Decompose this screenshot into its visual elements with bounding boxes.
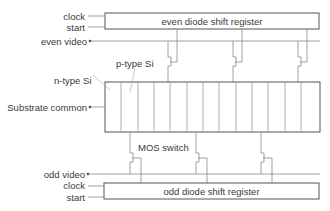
diode-array <box>105 82 320 132</box>
start-top-label: start <box>67 22 85 33</box>
start-bottom-label: start <box>67 192 85 203</box>
p-type-label: p-type Si <box>116 58 154 69</box>
odd-register-label: odd diode shift register <box>104 186 319 197</box>
even-mos-switches <box>168 29 307 82</box>
clock-bottom-label: clock <box>63 180 85 191</box>
clock-top-label: clock <box>63 11 85 22</box>
even-video-label: even video <box>41 36 87 47</box>
odd-video-label: odd video <box>44 169 85 180</box>
substrate-common-label: Substrate common <box>7 102 87 113</box>
n-type-label: n-type Si <box>54 75 92 86</box>
even-register-label: even diode shift register <box>105 16 319 27</box>
mos-switch-label: MOS switch <box>138 142 189 153</box>
odd-mos-switches <box>130 132 272 183</box>
